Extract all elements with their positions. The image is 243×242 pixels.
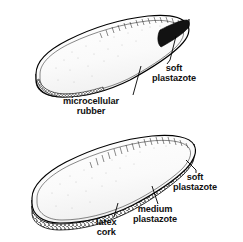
top-insole-drawing [36, 15, 189, 97]
label-line-2: plastazote [173, 183, 217, 193]
label-medium-plastazote: medium plastazote [133, 205, 177, 224]
label-line-2: plastazote [133, 215, 177, 225]
label-line-2: plastazote [152, 74, 196, 84]
label-latex-cork: latex cork [96, 218, 116, 237]
insole-construction-figure [0, 0, 243, 242]
label-microcellular-rubber: microcellular rubber [63, 97, 119, 116]
insole-diagram-svg [0, 0, 243, 242]
label-line-2: rubber [63, 107, 119, 117]
label-line-2: cork [96, 228, 116, 238]
label-soft-plastazote-top: soft plastazote [152, 64, 196, 83]
label-soft-plastazote-bottom: soft plastazote [173, 173, 217, 192]
